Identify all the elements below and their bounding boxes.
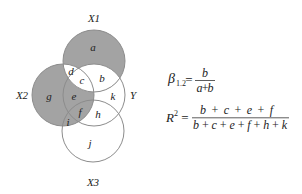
region-c: c [80,74,85,86]
label-x1: X1 [87,12,100,24]
beta-denominator: a+b [197,81,214,95]
label-x3: X3 [86,176,100,188]
region-b: b [99,72,105,84]
beta-equals: = [185,72,192,87]
r-superscript: 2 [174,109,178,118]
beta-symbol: β [167,71,175,86]
region-g: g [46,90,52,102]
r-denominator: b+c+e+f+h+k [193,118,288,132]
region-i: i [66,116,69,128]
region-d: d [68,65,74,77]
r-symbol: R [165,110,174,125]
label-x2: X2 [15,89,29,101]
region-h: h [95,108,101,120]
beta-numerator: b [202,66,208,80]
venn-diagram-figure: X1 X2 Y X3 a b c d e f g h i j k β 1.2 =… [0,0,302,194]
r-equals: = [181,110,188,125]
region-e: e [72,90,77,102]
region-a: a [90,41,96,53]
r-numerator: b+c+e+f [200,103,275,117]
